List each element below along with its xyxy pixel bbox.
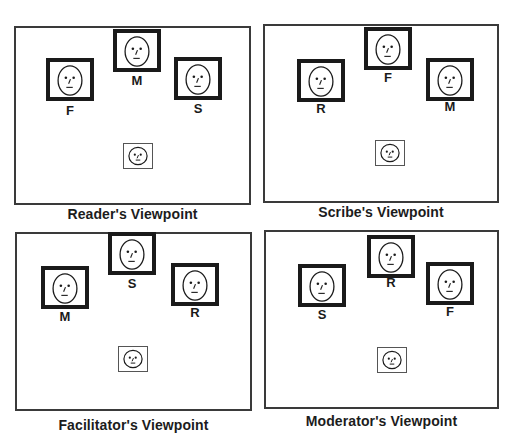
participant-label: R: [171, 305, 219, 320]
participant-frame-s: [298, 264, 346, 307]
participant-label: M: [41, 309, 89, 324]
viewpoint-caption: Reader's Viewpoint: [14, 206, 251, 222]
face-icon: [51, 272, 79, 305]
participant-frame-s: [108, 232, 156, 275]
face-icon: [184, 63, 212, 96]
participant-frame-m: [41, 266, 89, 309]
participant-label: S: [174, 101, 222, 116]
participant-label: F: [426, 304, 474, 319]
participant-frame-f: [46, 58, 94, 101]
viewpoint-caption: Moderator's Viewpoint: [264, 413, 499, 429]
participant-frame-m: [113, 29, 161, 72]
participant-frame-r: [297, 59, 345, 102]
face-icon: [381, 350, 403, 370]
participant-frame-r: [171, 263, 219, 306]
face-icon: [436, 268, 464, 301]
face-icon: [379, 143, 401, 163]
face-icon: [127, 146, 149, 166]
participant-label: S: [298, 307, 346, 322]
participant-frame-r: [367, 235, 415, 278]
participant-label: M: [113, 73, 161, 88]
viewpoint-caption: Facilitator's Viewpoint: [15, 417, 252, 433]
self-view-thumbnail: [123, 143, 153, 169]
face-icon: [307, 65, 335, 98]
face-icon: [56, 64, 84, 97]
face-icon: [123, 35, 151, 68]
self-view-thumbnail: [377, 347, 407, 373]
face-icon: [308, 270, 336, 303]
face-icon: [374, 33, 402, 66]
participant-frame-m: [426, 58, 474, 101]
face-icon: [122, 349, 144, 369]
face-icon: [436, 64, 464, 97]
face-icon: [377, 241, 405, 274]
participant-label: S: [108, 276, 156, 291]
participant-label: M: [426, 99, 474, 114]
participant-label: F: [46, 103, 94, 118]
self-view-thumbnail: [118, 346, 148, 372]
participant-label: R: [297, 101, 345, 116]
viewpoint-caption: Scribe's Viewpoint: [263, 204, 499, 220]
participant-label: F: [364, 70, 412, 85]
participant-frame-f: [364, 27, 412, 70]
participant-label: R: [367, 275, 415, 290]
face-icon: [181, 269, 209, 302]
self-view-thumbnail: [375, 140, 405, 166]
participant-frame-s: [174, 57, 222, 100]
participant-frame-f: [426, 262, 474, 305]
face-icon: [118, 238, 146, 271]
